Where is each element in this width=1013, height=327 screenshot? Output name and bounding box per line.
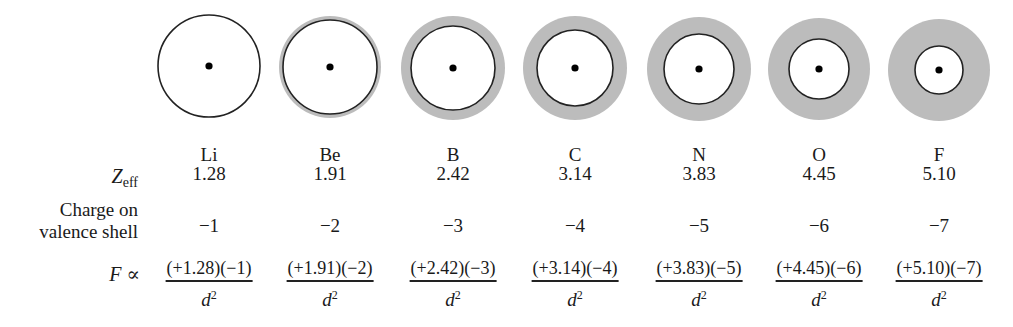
fraction-denominator: d2 xyxy=(656,284,743,311)
force-fraction-f: (+5.10)(−7) d2 xyxy=(896,258,983,311)
element-symbol: F xyxy=(934,145,945,165)
distance-symbol: d xyxy=(567,289,577,310)
zeff-value: 5.10 xyxy=(922,164,955,184)
fraction-bar xyxy=(776,280,863,282)
fraction-numerator: (+1.91)(−2) xyxy=(287,258,374,278)
distance-symbol: d xyxy=(322,289,332,310)
element-symbol: O xyxy=(812,145,826,165)
fraction-denominator: d2 xyxy=(166,284,253,311)
nucleus-icon xyxy=(815,65,822,72)
distance-symbol: d xyxy=(201,289,211,310)
fraction-denominator: d2 xyxy=(532,284,619,311)
fraction-numerator: (+4.45)(−6) xyxy=(776,258,863,278)
charge-value: −3 xyxy=(443,216,463,236)
fraction-numerator: (+3.83)(−5) xyxy=(656,258,743,278)
charge-value: −1 xyxy=(199,216,219,236)
force-fraction-c: (+3.14)(−4) d2 xyxy=(532,258,619,311)
zeff-value: 3.83 xyxy=(682,164,715,184)
nucleus-icon xyxy=(935,66,942,73)
atom-f xyxy=(888,19,990,121)
charge-value: −2 xyxy=(320,216,340,236)
fraction-denominator: d2 xyxy=(776,284,863,311)
exponent: 2 xyxy=(332,288,338,302)
fraction-denominator: d2 xyxy=(896,284,983,311)
element-symbol: Li xyxy=(201,145,218,165)
exponent: 2 xyxy=(577,288,583,302)
atom-n xyxy=(647,17,751,121)
exponent: 2 xyxy=(821,288,827,302)
nucleus-icon xyxy=(695,65,702,72)
zeff-value: 3.14 xyxy=(558,164,591,184)
fraction-bar xyxy=(166,280,253,282)
fraction-bar xyxy=(532,280,619,282)
distance-symbol: d xyxy=(691,289,701,310)
nucleus-icon xyxy=(205,62,212,69)
fraction-denominator: d2 xyxy=(410,284,497,311)
zeff-row-label: Zeff xyxy=(0,166,138,193)
atom-c xyxy=(523,16,627,120)
fraction-numerator: (+3.14)(−4) xyxy=(532,258,619,278)
force-row-label: F ∝ xyxy=(0,264,140,284)
fraction-denominator: d2 xyxy=(287,284,374,311)
element-symbol: B xyxy=(447,145,460,165)
nucleus-icon xyxy=(326,63,333,70)
zeff-value: 1.91 xyxy=(313,164,346,184)
atom-o xyxy=(768,18,870,120)
nucleus-icon xyxy=(449,64,456,71)
distance-symbol: d xyxy=(445,289,455,310)
force-fraction-li: (+1.28)(−1) d2 xyxy=(166,258,253,311)
charge-label-line2: valence shell xyxy=(0,221,138,243)
fraction-numerator: (+5.10)(−7) xyxy=(896,258,983,278)
proportional-sign: ∝ xyxy=(121,263,140,285)
fraction-bar xyxy=(410,280,497,282)
force-fraction-n: (+3.83)(−5) d2 xyxy=(656,258,743,311)
element-symbol: N xyxy=(692,145,706,165)
zeff-subscript: eff xyxy=(123,175,138,190)
atom-diagrams xyxy=(0,0,1013,140)
fraction-numerator: (+2.42)(−3) xyxy=(410,258,497,278)
fraction-bar xyxy=(896,280,983,282)
charge-value: −4 xyxy=(565,216,585,236)
charge-value: −7 xyxy=(929,216,949,236)
charge-label-line1: Charge on xyxy=(0,199,138,221)
exponent: 2 xyxy=(211,288,217,302)
distance-symbol: d xyxy=(931,289,941,310)
exponent: 2 xyxy=(701,288,707,302)
fraction-bar xyxy=(287,280,374,282)
atom-be xyxy=(279,16,381,118)
fraction-bar xyxy=(656,280,743,282)
element-symbol: Be xyxy=(319,145,340,165)
zeff-value: 4.45 xyxy=(802,164,835,184)
exponent: 2 xyxy=(941,288,947,302)
exponent: 2 xyxy=(455,288,461,302)
charge-row-label: Charge on valence shell xyxy=(0,199,138,243)
atom-b xyxy=(401,16,505,120)
nucleus-icon xyxy=(571,64,578,71)
atom-li xyxy=(158,15,260,117)
force-fraction-o: (+4.45)(−6) d2 xyxy=(776,258,863,311)
zeff-symbol: Z xyxy=(112,165,123,187)
force-symbol: F xyxy=(109,263,121,285)
fraction-numerator: (+1.28)(−1) xyxy=(166,258,253,278)
force-fraction-be: (+1.91)(−2) d2 xyxy=(287,258,374,311)
zeff-value: 1.28 xyxy=(192,164,225,184)
element-symbol: C xyxy=(569,145,582,165)
zeff-value: 2.42 xyxy=(436,164,469,184)
force-fraction-b: (+2.42)(−3) d2 xyxy=(410,258,497,311)
charge-value: −6 xyxy=(809,216,829,236)
charge-value: −5 xyxy=(689,216,709,236)
distance-symbol: d xyxy=(811,289,821,310)
